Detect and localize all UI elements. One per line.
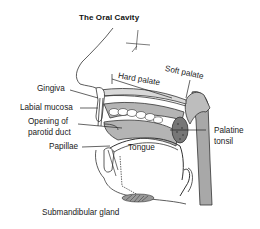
label-submandibular-gland: Submandibular gland — [42, 208, 119, 217]
hard-palate-band — [100, 88, 186, 104]
label-gingiva: Gingiva — [37, 84, 65, 93]
submandibular-duct — [120, 156, 140, 196]
label-labial-mucosa: Labial mucosa — [20, 103, 73, 112]
label-palatine-line2: tonsil — [214, 137, 233, 146]
label-palatine-line1: Palatine — [214, 126, 244, 135]
label-tongue: Tongue — [128, 143, 155, 152]
face-profile-outline — [76, 28, 113, 88]
eye-marks — [126, 30, 150, 52]
submandibular-gland-shape — [122, 194, 154, 202]
oral-cavity-illustration — [0, 0, 260, 229]
diagram-title: The Oral Cavity — [79, 13, 139, 22]
label-papillae: Papillae — [49, 142, 78, 151]
label-opening-parotid-line1: Opening of — [28, 117, 68, 126]
label-opening-parotid-line2: parotid duct — [28, 128, 71, 137]
upper-lip — [96, 88, 105, 122]
